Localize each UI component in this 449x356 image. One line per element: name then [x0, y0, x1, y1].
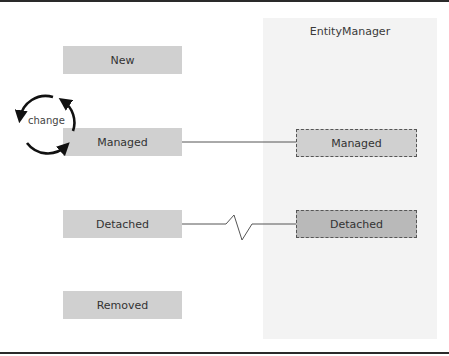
- state-new-label: New: [111, 54, 135, 67]
- bottom-rule: [0, 352, 449, 354]
- state-detached: Detached: [63, 210, 182, 238]
- change-label: change: [27, 115, 66, 126]
- state-removed: Removed: [63, 291, 182, 319]
- em-state-managed: Managed: [296, 129, 417, 157]
- em-state-detached: Detached: [296, 210, 417, 238]
- state-removed-label: Removed: [97, 299, 149, 312]
- state-detached-label: Detached: [96, 218, 149, 231]
- em-state-detached-label: Detached: [330, 218, 383, 231]
- state-new: New: [63, 46, 182, 74]
- entity-manager-title: EntityManager: [263, 25, 437, 38]
- em-state-managed-label: Managed: [331, 137, 382, 150]
- state-managed: Managed: [63, 128, 182, 156]
- entity-manager-panel: EntityManager: [263, 18, 437, 339]
- state-managed-label: Managed: [97, 136, 148, 149]
- top-rule: [0, 0, 449, 2]
